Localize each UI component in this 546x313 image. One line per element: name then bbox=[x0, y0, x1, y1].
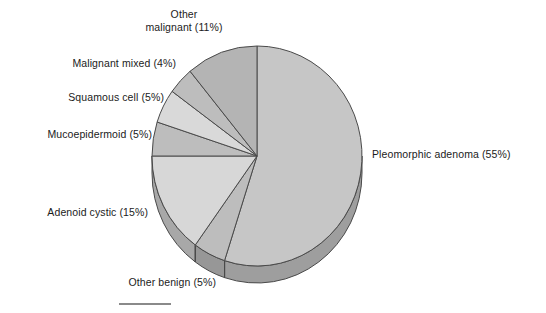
slice-label-squamous-cell: Squamous cell (5%) bbox=[0, 91, 164, 104]
slice-label-other-benign: Other benign (5%) bbox=[60, 276, 216, 289]
slice-label-mucoepidermoid: Mucoepidermoid (5%) bbox=[0, 128, 152, 141]
slice-label-other-malignant: Other malignant (11%) bbox=[108, 8, 260, 34]
pie-chart-figure: Other malignant (11%) Malignant mixed (4… bbox=[0, 0, 546, 313]
slice-label-malignant-mixed: Malignant mixed (4%) bbox=[0, 57, 176, 70]
figure-rule bbox=[119, 303, 171, 305]
pie-top-face-group bbox=[152, 46, 362, 266]
slice-label-pleomorphic-adenoma: Pleomorphic adenoma (55%) bbox=[372, 148, 546, 161]
slice-label-adenoid-cystic: Adenoid cystic (15%) bbox=[0, 206, 148, 219]
